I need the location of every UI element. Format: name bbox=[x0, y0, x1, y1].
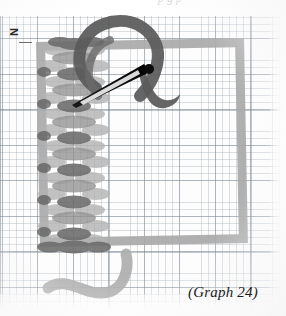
bottom-wave-shape bbox=[48, 254, 127, 293]
marker-dark bbox=[57, 132, 91, 145]
marker-mid bbox=[52, 180, 96, 193]
marker-mid bbox=[52, 212, 96, 225]
figure-canvas: p g p bbox=[0, 0, 286, 316]
marker-dark bbox=[85, 242, 111, 253]
marker-accent bbox=[37, 131, 51, 141]
marker-accent bbox=[37, 195, 51, 205]
y-axis-label: N bbox=[8, 28, 20, 36]
bottom-wave bbox=[48, 254, 127, 293]
marker-accent bbox=[37, 67, 51, 77]
marker-dark bbox=[57, 164, 91, 177]
axis-tick-mark bbox=[19, 42, 32, 43]
needle-tip-dot bbox=[144, 64, 154, 74]
figure-artwork bbox=[0, 0, 286, 316]
marker-column bbox=[37, 37, 111, 254]
marker-mid bbox=[52, 116, 96, 129]
marker-mid bbox=[52, 148, 96, 161]
marker-dark bbox=[37, 242, 63, 253]
marker-dark bbox=[48, 37, 72, 47]
marker-accent bbox=[37, 227, 51, 237]
figure-caption: (Graph 24) bbox=[188, 284, 258, 301]
marker-dark bbox=[57, 228, 91, 241]
marker-accent bbox=[37, 163, 51, 173]
marker-dark bbox=[57, 196, 91, 209]
marker-accent bbox=[37, 99, 51, 109]
